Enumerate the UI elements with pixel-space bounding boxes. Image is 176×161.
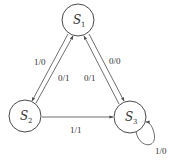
state-s1: S 1 bbox=[62, 4, 94, 36]
edge-s1-to-s3 bbox=[89, 34, 124, 101]
svg-text:S: S bbox=[73, 13, 81, 27]
state-s3: S 3 bbox=[114, 101, 146, 133]
svg-text:S: S bbox=[125, 110, 133, 124]
edge-s2-to-s1 bbox=[36, 36, 73, 103]
label-s3-to-s1: 0/1 bbox=[84, 73, 96, 83]
svg-text:S: S bbox=[20, 109, 28, 123]
svg-text:2: 2 bbox=[28, 117, 32, 125]
svg-text:1: 1 bbox=[81, 21, 85, 29]
state-s2: S 2 bbox=[9, 100, 41, 132]
edge-s3-to-s1 bbox=[84, 36, 119, 104]
label-s1-to-s2: 1/0 bbox=[34, 57, 46, 67]
svg-text:3: 3 bbox=[133, 118, 137, 126]
label-s3-self-loop: 1/0 bbox=[155, 146, 167, 156]
state-diagram: S 1 S 2 S 3 1/0 0/1 0/1 0/0 1/1 1/0 bbox=[0, 0, 176, 161]
label-s2-to-s1: 0/1 bbox=[58, 73, 70, 83]
label-s1-to-s3: 0/0 bbox=[109, 56, 121, 66]
label-s2-to-s3: 1/1 bbox=[70, 125, 82, 135]
edge-s1-to-s2 bbox=[32, 34, 68, 101]
